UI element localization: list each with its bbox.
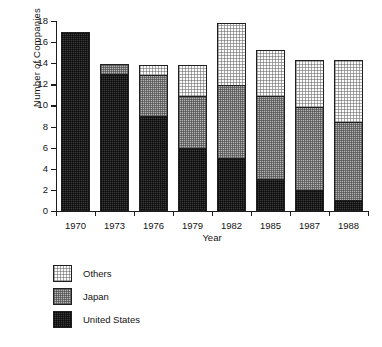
y-tick-mark xyxy=(51,127,56,128)
x-tick-label: 1973 xyxy=(95,220,135,231)
bar-segment-united-states xyxy=(217,158,246,211)
y-tick-label: 12 xyxy=(37,80,48,90)
x-tick-mark xyxy=(290,211,291,216)
bar-segment-united-states xyxy=(139,116,168,211)
bar-segment-japan xyxy=(334,122,363,201)
y-tick-label: 8 xyxy=(43,122,48,132)
bar-1987 xyxy=(295,60,324,211)
bar-segment-united-states xyxy=(256,179,285,211)
x-tick-mark xyxy=(212,211,213,216)
legend-label: Others xyxy=(83,268,112,279)
bar-segment-japan xyxy=(217,85,246,159)
bar-segment-japan xyxy=(178,96,207,149)
bar-segment-japan xyxy=(139,75,168,117)
bar-segment-united-states xyxy=(334,200,363,211)
bar-segment-others xyxy=(334,60,363,123)
x-tick-label: 1988 xyxy=(329,220,369,231)
bar-segment-united-states xyxy=(100,74,129,211)
x-tick-label: 1979 xyxy=(173,220,213,231)
stacked-bar-chart: Number of Companies 024681012141618 1970… xyxy=(0,0,382,347)
y-tick-label: 4 xyxy=(43,164,48,174)
x-tick-mark xyxy=(95,211,96,216)
legend-item-japan: Japan xyxy=(53,285,140,308)
bar-segment-united-states xyxy=(178,148,207,211)
x-tick-mark xyxy=(329,211,330,216)
bar-segment-japan xyxy=(295,107,324,191)
y-tick-mark xyxy=(51,105,56,106)
checker-dark-swatch xyxy=(53,311,72,328)
bar-segment-others xyxy=(178,65,207,97)
checker-gray-swatch xyxy=(53,288,72,305)
y-tick-label: 16 xyxy=(37,37,48,47)
x-tick-label: 1985 xyxy=(251,220,291,231)
x-tick-label: 1982 xyxy=(212,220,252,231)
y-tick-label: 14 xyxy=(37,58,48,68)
bar-segment-united-states xyxy=(61,32,90,211)
y-tick-mark xyxy=(51,169,56,170)
chart-legend: Others Japan United States xyxy=(53,262,140,331)
x-axis-title: Year xyxy=(56,232,368,243)
x-tick-mark xyxy=(368,211,369,216)
bar-1988 xyxy=(334,60,363,211)
y-axis-line xyxy=(56,21,57,211)
y-tick-label: 2 xyxy=(43,185,48,195)
y-tick-label: 0 xyxy=(43,206,48,216)
y-tick-label: 10 xyxy=(37,101,48,111)
y-tick-label: 6 xyxy=(43,143,48,153)
legend-item-united-states: United States xyxy=(53,308,140,331)
bar-segment-others xyxy=(256,50,285,98)
legend-label: Japan xyxy=(83,291,109,302)
x-tick-mark xyxy=(173,211,174,216)
x-tick-label: 1987 xyxy=(290,220,330,231)
x-tick-mark xyxy=(251,211,252,216)
bar-1973 xyxy=(100,64,129,211)
bar-1982 xyxy=(217,23,246,211)
y-tick-label: 18 xyxy=(37,16,48,26)
bar-segment-japan xyxy=(256,96,285,180)
x-tick-mark xyxy=(56,211,57,216)
legend-label: United States xyxy=(83,314,140,325)
bar-segment-others xyxy=(217,23,246,86)
plot-area: 024681012141618 197019731976197919821985… xyxy=(56,21,368,211)
y-tick-mark xyxy=(51,63,56,64)
y-tick-mark xyxy=(51,84,56,85)
x-tick-mark xyxy=(134,211,135,216)
bar-1976 xyxy=(139,65,168,211)
bar-segment-united-states xyxy=(295,190,324,211)
y-tick-mark xyxy=(51,190,56,191)
x-tick-label: 1970 xyxy=(56,220,96,231)
legend-item-others: Others xyxy=(53,262,140,285)
bar-1979 xyxy=(178,65,207,211)
x-tick-label: 1976 xyxy=(134,220,174,231)
y-tick-mark xyxy=(51,148,56,149)
dotted-light-swatch xyxy=(53,265,72,282)
y-tick-mark xyxy=(51,42,56,43)
bar-1970 xyxy=(61,32,90,211)
bar-segment-others xyxy=(295,60,324,108)
bar-1985 xyxy=(256,50,285,211)
y-tick-mark xyxy=(51,21,56,22)
